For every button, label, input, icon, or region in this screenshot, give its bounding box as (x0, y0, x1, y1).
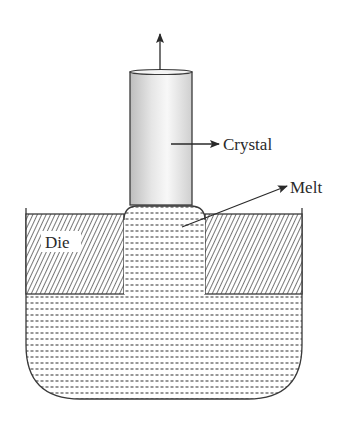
die-label: Die (45, 233, 70, 252)
crucible-melt (26, 294, 302, 399)
melt-label: Melt (290, 178, 322, 197)
melt-meniscus (124, 206, 205, 294)
die-right (205, 214, 302, 294)
crystal (130, 72, 192, 205)
crystal-top (130, 70, 192, 75)
crystal-label: Crystal (223, 135, 272, 154)
efg-diagram: Crystal Melt Die (0, 0, 349, 424)
die-left (26, 214, 124, 294)
